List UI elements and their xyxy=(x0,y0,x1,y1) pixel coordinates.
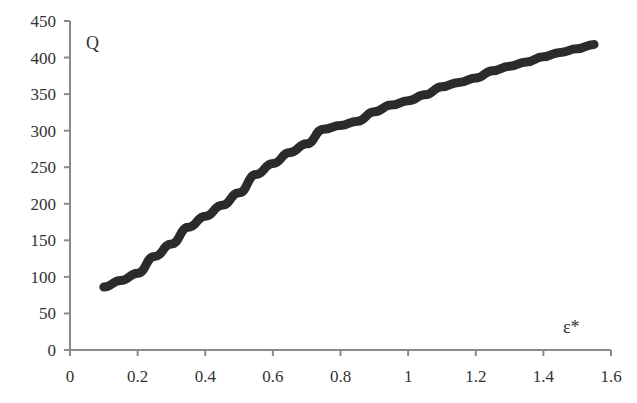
x-tick-label: 1.4 xyxy=(533,367,555,386)
line-chart: 050100150200250300350400450 00.20.40.60.… xyxy=(0,0,637,403)
data-series-line xyxy=(104,44,594,287)
x-tick-label: 1 xyxy=(404,367,413,386)
x-tick-label: 0.8 xyxy=(330,367,351,386)
y-tick-label: 400 xyxy=(31,49,57,68)
x-tick-label: 0 xyxy=(66,367,75,386)
y-tick-label: 300 xyxy=(31,122,57,141)
y-tick-label: 50 xyxy=(39,304,56,323)
y-tick-label: 0 xyxy=(48,341,57,360)
x-tick-label: 0.4 xyxy=(195,367,217,386)
y-tick-label: 100 xyxy=(31,268,57,287)
y-tick-label: 250 xyxy=(31,158,57,177)
y-axis-title: Q xyxy=(86,33,99,53)
x-tick-label: 1.2 xyxy=(465,367,486,386)
x-axis-ticks: 00.20.40.60.811.21.41.6 xyxy=(66,350,622,386)
y-tick-label: 150 xyxy=(31,231,57,250)
x-axis-title: ε* xyxy=(563,317,580,337)
y-tick-label: 350 xyxy=(31,85,57,104)
x-tick-label: 1.6 xyxy=(600,367,621,386)
x-tick-label: 0.6 xyxy=(262,367,283,386)
y-tick-label: 200 xyxy=(31,195,57,214)
x-tick-label: 0.2 xyxy=(127,367,148,386)
y-axis-ticks: 050100150200250300350400450 xyxy=(31,12,71,360)
y-tick-label: 450 xyxy=(31,12,57,31)
